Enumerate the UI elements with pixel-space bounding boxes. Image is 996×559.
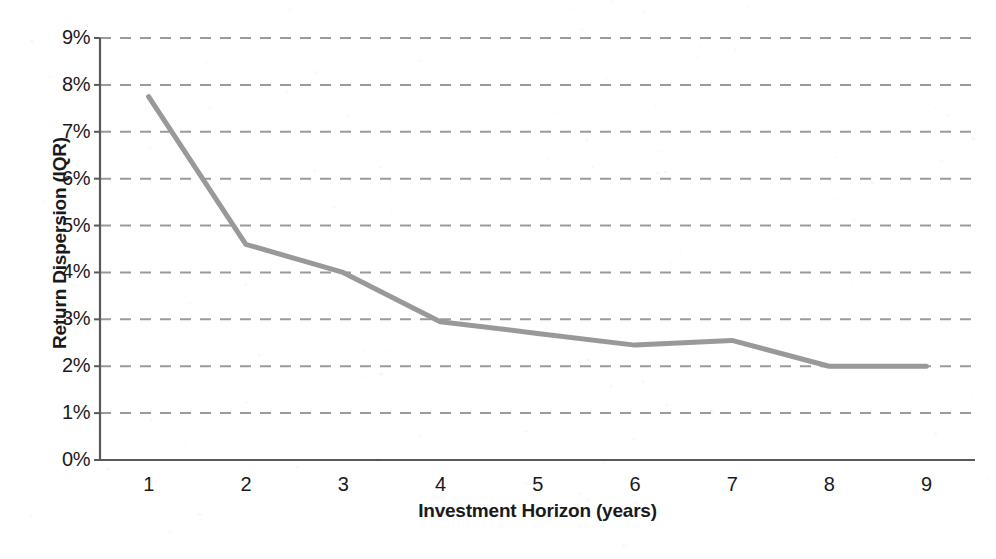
chart-figure: 0%1%2%3%4%5%6%7%8%9% 123456789 Return Di…	[0, 0, 996, 559]
x-axis-title: Investment Horizon (years)	[100, 500, 975, 522]
x-tick-label: 9	[906, 474, 946, 494]
x-tick-label: 1	[129, 474, 169, 494]
y-axis-title: Return Dispersion (IQR)	[40, 8, 80, 478]
x-tick-label: 3	[323, 474, 363, 494]
x-axis-tick-labels: 123456789	[0, 0, 996, 559]
x-tick-label: 5	[518, 474, 558, 494]
x-tick-label: 8	[809, 474, 849, 494]
x-tick-label: 7	[712, 474, 752, 494]
x-tick-label: 4	[420, 474, 460, 494]
x-tick-label: 2	[226, 474, 266, 494]
x-tick-label: 6	[615, 474, 655, 494]
